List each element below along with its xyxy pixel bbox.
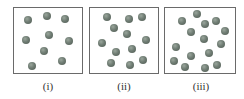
particle-icon	[181, 63, 189, 71]
particle-icon	[22, 36, 30, 44]
particle-icon	[201, 64, 209, 72]
particle-icon	[107, 59, 115, 67]
particle-icon	[58, 57, 66, 65]
particle-icon	[40, 47, 48, 55]
particle-icon	[170, 57, 178, 65]
panel-label-1: (i)	[28, 80, 68, 92]
particle-icon	[61, 15, 69, 23]
particle-icon	[172, 43, 180, 51]
particle-icon	[128, 45, 136, 53]
particle-icon	[28, 62, 36, 70]
particle-icon	[126, 61, 134, 69]
particle-icon	[187, 52, 195, 60]
particle-icon	[45, 31, 53, 39]
particle-icon	[112, 48, 120, 56]
particle-icon	[103, 13, 111, 21]
panel-label-3: (iii)	[181, 80, 221, 92]
particle-icon	[24, 16, 32, 24]
particle-icon	[98, 39, 106, 47]
particle-icon	[65, 37, 73, 45]
particle-icon	[213, 61, 221, 69]
particle-icon	[43, 12, 51, 20]
particle-icon	[201, 20, 209, 28]
particle-icon	[212, 17, 220, 25]
particle-icon	[123, 30, 131, 38]
particle-icon	[205, 49, 213, 57]
particle-icon	[138, 13, 146, 21]
particle-icon	[125, 15, 133, 23]
particle-icon	[142, 36, 150, 44]
particle-icon	[193, 10, 201, 18]
particle-icon	[110, 24, 118, 32]
panel-label-2: (ii)	[104, 80, 144, 92]
particle-icon	[178, 17, 186, 25]
particle-icon	[221, 27, 229, 35]
particle-icon	[187, 28, 195, 36]
particle-icon	[139, 56, 147, 64]
particle-icon	[217, 40, 225, 48]
particle-icon	[200, 35, 208, 43]
